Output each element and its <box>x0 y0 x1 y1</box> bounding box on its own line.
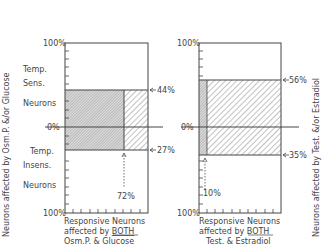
right-annotation-35: 35% <box>289 151 307 160</box>
left-tick-zero: 0% <box>47 123 60 132</box>
lower-label-line1: Temp. <box>29 147 54 156</box>
right-both-region <box>199 80 207 155</box>
right-hatched-region <box>199 80 281 155</box>
right-panel: 100% 0% 100% 56% 35% 10% Responsive Neur… <box>177 39 321 246</box>
left-x-label-line3: Osm.P. & Glucose <box>64 237 134 246</box>
chart-figure: Neurons affected by Osm.P. &/or Glucose … <box>0 0 326 249</box>
right-tick-bottom: 100% <box>177 209 200 218</box>
lower-label-line2: Insens. <box>23 161 51 170</box>
arrow-icon <box>150 148 156 152</box>
left-annotation-27: 27% <box>157 146 175 155</box>
right-x-label-line1: Responsive Neurons <box>199 217 280 226</box>
right-annotation-10: 10% <box>203 189 221 198</box>
right-tick-top: 100% <box>177 39 200 48</box>
upper-label-line2: Sens. <box>23 79 45 88</box>
upper-label-line1: Temp. <box>22 65 47 74</box>
left-both-region <box>65 90 124 150</box>
right-annotation-56: 56% <box>289 76 307 85</box>
left-annotation-44: 44% <box>157 86 175 95</box>
left-annotation-72: 72% <box>117 192 135 201</box>
upper-label-line3: Neurons <box>23 99 56 108</box>
left-y-axis-label: Neurons affected by Osm.P. &/or Glucose <box>2 72 11 237</box>
arrow-icon <box>150 88 156 92</box>
right-y-axis-label: Neurons affected by Test. &/or Estradiol <box>312 78 321 237</box>
right-x-label-line3: Test. & Estradiol <box>205 237 271 246</box>
left-tick-bottom: 100% <box>43 209 66 218</box>
left-panel: Neurons affected by Osm.P. &/or Glucose … <box>2 39 175 246</box>
lower-label-line3: Neurons <box>23 181 56 190</box>
left-tick-top: 100% <box>43 39 66 48</box>
left-x-label-line1: Responsive Neurons <box>64 217 145 226</box>
right-tick-zero: 0% <box>181 123 194 132</box>
